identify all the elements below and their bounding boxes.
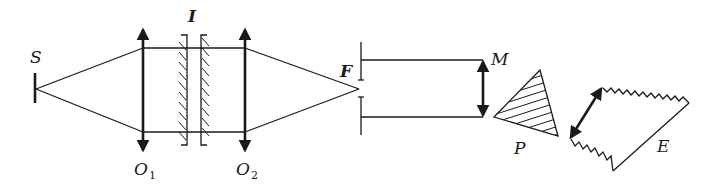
- label-source: S: [30, 47, 42, 67]
- beam-slit-to-m: [361, 60, 483, 117]
- interferometer-mirror-left: [179, 35, 187, 145]
- parallel-beams: [143, 48, 245, 132]
- label-lens-o1: O1: [134, 159, 156, 182]
- label-slit: F: [339, 61, 354, 81]
- label-prism: P: [513, 138, 526, 158]
- optical-diagram: S I O1 O2 F M P E: [0, 0, 722, 185]
- label-lens-o2: O2: [236, 159, 258, 182]
- screen-e: [571, 88, 689, 171]
- rays-source-to-o1: [36, 48, 143, 132]
- label-screen: E: [656, 136, 670, 156]
- diagram-canvas: S I O1 O2 F M P E: [0, 0, 722, 185]
- interferometer-mirror-right: [201, 35, 209, 145]
- prism-p: [490, 68, 565, 156]
- labels: S I O1 O2 F M P E: [30, 6, 670, 182]
- label-lens-m: M: [490, 49, 509, 69]
- label-interferometer: I: [187, 6, 197, 26]
